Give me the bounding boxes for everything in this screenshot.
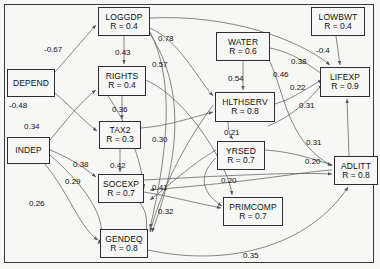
node-gendeq-r: R = 0.8 [110,244,138,253]
node-gendeq[interactable]: GENDEQ R = 0.8 [100,229,148,258]
node-hlthserv-r: R = 0.8 [231,107,259,116]
edge-label-depend-tax2: -0.48 [9,101,27,110]
edge-label-gendeq-adlitt: 0.35 [243,251,259,260]
edge-label-tax2-hlthserv: 0.30 [152,135,168,144]
edge-label-loggdp-rights: 0.43 [115,48,131,57]
edge-label-yrsed-adlitt-a: 0.31 [306,138,322,147]
edge-label-depend-loggdp: -0.67 [44,45,62,54]
node-socexp[interactable]: SOCEXP R = 0.7 [98,174,144,203]
node-primcomp-r: R = 0.7 [239,212,267,221]
edge-label-indep-curve: 0.29 [65,177,81,186]
node-adlitt-r: R = 0.8 [342,171,370,180]
node-yrsed[interactable]: YRSED R = 0.7 [217,141,265,170]
figure-border [4,4,374,263]
node-adlitt[interactable]: ADLITT R = 0.8 [334,156,378,185]
node-lifexp[interactable]: LIFEXP R = 0.9 [320,67,370,97]
edge-label-socexp-gendeq: 0.32 [158,207,174,216]
edge-label-hlthserv-yrsed: 0.21 [224,128,240,137]
node-indep-name: INDEP [15,146,41,155]
edge-label-rights-tax2: 0.36 [112,105,128,114]
edge-label-water-hlthserv: 0.54 [228,74,244,83]
node-lowbwt-r: R = 0.4 [324,22,352,31]
node-indep[interactable]: INDEP [7,137,50,164]
node-primcomp[interactable]: PRIMCOMP R = 0.7 [223,197,283,226]
node-depend-name: DEPEND [13,79,49,88]
node-water[interactable]: WATER R = 0.6 [216,32,270,61]
edge-label-water-lifexp: 0.38 [291,57,307,66]
edge-label-hlthserv-lifexp: 0.22 [290,83,306,92]
node-depend[interactable]: DEPEND [7,69,55,97]
node-water-r: R = 0.6 [229,47,257,56]
path-diagram-figure: LOGGDP R = 0.4 LOWBWT R = 0.4 WATER R = … [0,0,380,269]
edge-label-lifexp-lower: 0.31 [299,101,315,110]
edge-label-indep-gendeq: 0.26 [29,199,45,208]
edge-label-socexp-right: 0.41 [152,183,168,192]
edge-label-loggdp-lifexp: 0.78 [158,34,174,43]
edge-label-water-adlitt: 0.46 [273,70,289,79]
edge-label-loggdp-hlthserv: 0.57 [152,60,168,69]
node-lifexp-r: R = 0.9 [331,82,359,91]
node-yrsed-r: R = 0.7 [227,156,255,165]
edge-label-yrsed-left: 0.20 [221,176,237,185]
edge-label-indep-socexp: 0.38 [73,160,89,169]
node-rights[interactable]: RIGHTS R = 0.4 [98,66,146,96]
node-loggdp[interactable]: LOGGDP R = 0.4 [98,7,150,36]
node-lowbwt[interactable]: LOWBWT R = 0.4 [311,7,365,36]
edge-label-lowbwt-lifexp: -0.4 [316,46,330,55]
node-tax2[interactable]: TAX2 R = 0.3 [99,121,141,149]
node-hlthserv[interactable]: HLTHSERV R = 0.8 [215,92,275,122]
edge-label-tax2-socexp: 0.42 [110,161,126,170]
node-socexp-r: R = 0.7 [107,189,135,198]
node-rights-r: R = 0.4 [108,81,136,90]
edge-label-indep-rights: 0.34 [24,122,40,131]
node-tax2-r: R = 0.3 [106,135,134,144]
edge-label-yrsed-adlitt-b: 0.20 [305,157,321,166]
node-loggdp-r: R = 0.4 [110,22,138,31]
